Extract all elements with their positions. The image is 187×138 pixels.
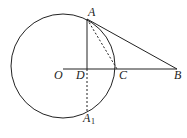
segment-ab xyxy=(87,19,177,69)
label-a1-subscript: 1 xyxy=(91,117,95,126)
label-c: C xyxy=(119,68,128,82)
label-b: B xyxy=(174,68,182,82)
label-d: D xyxy=(75,68,85,82)
label-a1: A xyxy=(82,111,91,125)
segment-ac-dashed xyxy=(87,19,117,69)
geometry-diagram: A O D C B A 1 xyxy=(0,0,187,138)
circle-o xyxy=(11,14,115,118)
label-o: O xyxy=(54,68,63,82)
label-a: A xyxy=(87,5,96,19)
